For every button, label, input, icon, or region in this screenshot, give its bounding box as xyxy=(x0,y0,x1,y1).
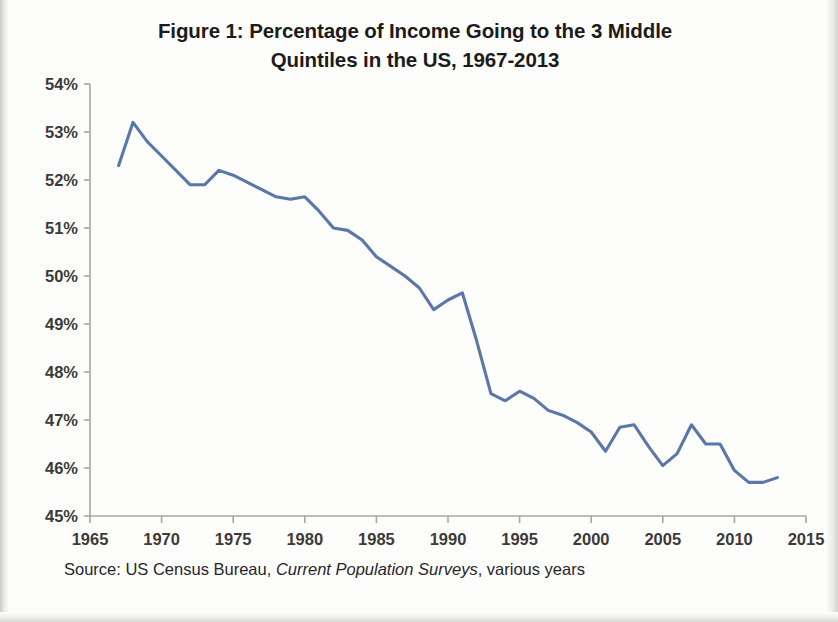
y-axis-tick-label: 46% xyxy=(45,459,78,477)
x-axis-tick-label: 2010 xyxy=(716,530,753,548)
y-axis-tick-label: 49% xyxy=(45,315,78,333)
x-axis-tick-label: 1995 xyxy=(501,530,538,548)
x-axis-tick-label: 1990 xyxy=(430,530,467,548)
x-axis-tick-label: 1975 xyxy=(215,530,252,548)
source-suffix: , various years xyxy=(478,560,585,578)
y-axis-tick-label: 47% xyxy=(45,411,78,429)
data-series-line xyxy=(119,122,778,482)
y-axis-tick-label: 50% xyxy=(45,267,78,285)
x-axis-tick-label: 1985 xyxy=(358,530,395,548)
x-axis-tick-label: 2015 xyxy=(788,530,825,548)
y-axis-tick-label: 54% xyxy=(45,75,78,93)
figure-container: Figure 1: Percentage of Income Going to … xyxy=(0,0,838,622)
y-axis-tick-label: 45% xyxy=(45,507,78,525)
x-axis-tick-label: 1970 xyxy=(143,530,180,548)
y-axis: 45%46%47%48%49%50%51%52%53%54% xyxy=(45,75,90,525)
y-axis-tick-label: 48% xyxy=(45,363,78,381)
source-note: Source: US Census Bureau, Current Popula… xyxy=(64,560,585,579)
y-axis-tick-label: 52% xyxy=(45,171,78,189)
y-axis-tick-label: 53% xyxy=(45,123,78,141)
x-axis: 1965197019751980198519901995200020052010… xyxy=(72,516,825,548)
line-chart-plot: 45%46%47%48%49%50%51%52%53%54% 196519701… xyxy=(0,0,838,622)
x-axis-tick-label: 2000 xyxy=(573,530,610,548)
x-axis-tick-label: 2005 xyxy=(644,530,681,548)
x-axis-tick-label: 1965 xyxy=(72,530,109,548)
data-series-group xyxy=(119,122,778,482)
source-publication-title: Current Population Surveys xyxy=(276,560,478,578)
source-prefix: Source: US Census Bureau, xyxy=(64,560,271,578)
x-axis-tick-label: 1980 xyxy=(286,530,323,548)
y-axis-tick-label: 51% xyxy=(45,219,78,237)
